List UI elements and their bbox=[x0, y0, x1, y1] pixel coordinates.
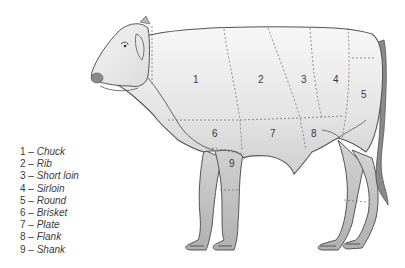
hind-legs bbox=[318, 140, 378, 250]
legend-separator: – bbox=[26, 158, 37, 169]
fore-legs bbox=[186, 140, 244, 250]
legend-name: Short loin bbox=[37, 170, 79, 181]
legend-name: Round bbox=[37, 195, 66, 206]
legend-separator: – bbox=[26, 183, 37, 194]
legend-name: Chuck bbox=[37, 146, 65, 157]
legend-separator: – bbox=[26, 231, 37, 242]
legend-name: Sirloin bbox=[37, 183, 65, 194]
legend-item-round: 5 – Round bbox=[20, 195, 79, 207]
legend-name: Shank bbox=[37, 244, 65, 255]
legend-item-shank: 9 – Shank bbox=[20, 244, 79, 256]
legend-separator: – bbox=[26, 146, 37, 157]
cut-label-2: 2 bbox=[258, 74, 264, 85]
cow-head bbox=[91, 16, 150, 91]
cuts-legend: 1 – Chuck 2 – Rib 3 – Short loin 4 – Sir… bbox=[20, 146, 79, 256]
legend-item-brisket: 6 – Brisket bbox=[20, 207, 79, 219]
legend-name: Plate bbox=[37, 219, 60, 230]
cut-label-5: 5 bbox=[361, 89, 367, 100]
cut-label-6: 6 bbox=[212, 128, 218, 139]
legend-separator: – bbox=[26, 207, 37, 218]
cut-label-9: 9 bbox=[229, 158, 235, 169]
legend-separator: – bbox=[26, 244, 37, 255]
legend-item-rib: 2 – Rib bbox=[20, 158, 79, 170]
cut-label-1: 1 bbox=[193, 74, 199, 85]
legend-name: Rib bbox=[37, 158, 52, 169]
cut-label-8: 8 bbox=[311, 128, 317, 139]
legend-item-chuck: 1 – Chuck bbox=[20, 146, 79, 158]
legend-item-plate: 7 – Plate bbox=[20, 219, 79, 231]
legend-item-flank: 8 – Flank bbox=[20, 231, 79, 243]
legend-separator: – bbox=[26, 170, 37, 181]
legend-item-sirloin: 4 – Sirloin bbox=[20, 183, 79, 195]
legend-name: Flank bbox=[37, 231, 61, 242]
legend-separator: – bbox=[26, 219, 37, 230]
legend-separator: – bbox=[26, 195, 37, 206]
cut-label-3: 3 bbox=[301, 74, 307, 85]
cut-label-4: 4 bbox=[333, 74, 339, 85]
legend-name: Brisket bbox=[37, 207, 68, 218]
legend-item-short-loin: 3 – Short loin bbox=[20, 170, 79, 182]
cut-label-7: 7 bbox=[270, 128, 276, 139]
